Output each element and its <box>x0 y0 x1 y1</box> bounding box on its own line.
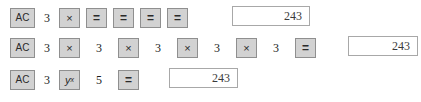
spacer <box>50 18 59 19</box>
multiply-button[interactable]: × <box>177 38 198 58</box>
spacer <box>50 48 59 49</box>
spacer <box>198 48 214 49</box>
multiply-button[interactable]: × <box>59 8 80 28</box>
spacer <box>102 48 118 49</box>
spacer <box>80 48 96 49</box>
equals-button[interactable]: = <box>118 70 139 90</box>
multiply-button[interactable]: × <box>118 38 139 58</box>
equals-button[interactable]: = <box>140 8 161 28</box>
all-clear-button[interactable]: AC <box>10 70 35 90</box>
spacer <box>50 80 59 81</box>
result-display: 243 <box>348 36 418 56</box>
result-display: 243 <box>232 6 310 26</box>
spacer <box>220 48 236 49</box>
spacer <box>102 80 118 81</box>
all-clear-button[interactable]: AC <box>10 38 35 58</box>
spacer <box>80 80 96 81</box>
spacer <box>161 48 177 49</box>
multiply-button[interactable]: × <box>236 38 257 58</box>
spacer <box>35 80 44 81</box>
spacer <box>279 48 295 49</box>
spacer <box>139 48 155 49</box>
multiply-button[interactable]: × <box>59 38 80 58</box>
result-display: 243 <box>169 68 238 88</box>
all-clear-button[interactable]: AC <box>10 8 35 28</box>
calculator-keystroke-sequences: AC 3 × = = = = 243 AC 3 × 3 × 3 × 3 × 3 <box>0 0 421 102</box>
power-base-label: y <box>65 71 71 89</box>
equals-button[interactable]: = <box>295 38 316 58</box>
power-button[interactable]: yx <box>59 70 80 90</box>
keystroke-sequence-row-2: AC 3 × 3 × 3 × 3 × 3 = <box>10 36 316 60</box>
equals-button[interactable]: = <box>167 8 188 28</box>
equals-button[interactable]: = <box>86 8 107 28</box>
spacer <box>257 48 273 49</box>
keystroke-sequence-row-3: AC 3 yx 5 = <box>10 68 139 92</box>
spacer <box>35 48 44 49</box>
keystroke-sequence-row-1: AC 3 × = = = = <box>10 6 188 30</box>
spacer <box>35 18 44 19</box>
equals-button[interactable]: = <box>113 8 134 28</box>
